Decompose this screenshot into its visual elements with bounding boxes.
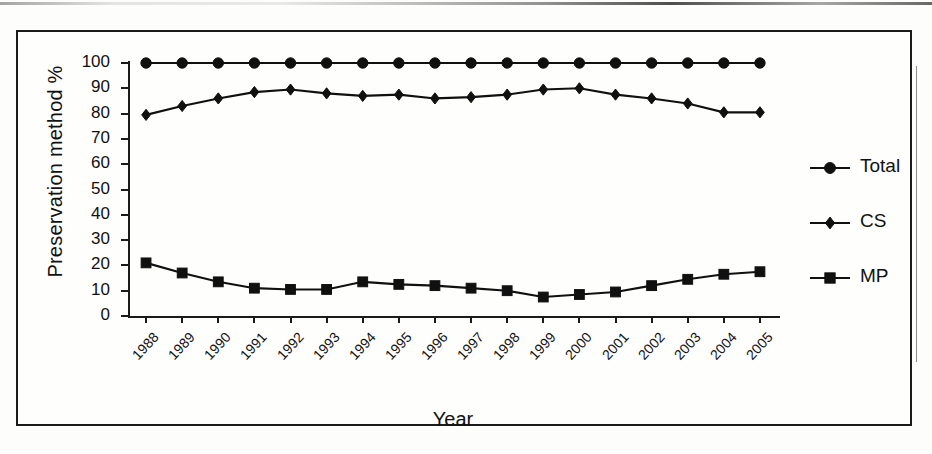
square-marker (502, 286, 512, 296)
y-tick: 100 (121, 62, 128, 64)
circle-marker (430, 58, 440, 68)
data-series-layer (128, 63, 780, 319)
y-tick-label: 20 (70, 254, 110, 274)
diamond-marker (178, 100, 187, 111)
diamond-marker (250, 86, 259, 97)
circle-marker (683, 58, 693, 68)
legend-label: Total (860, 155, 900, 177)
square-marker (286, 285, 296, 295)
y-tick-label: 60 (70, 153, 110, 173)
x-tick-label: 2003 (669, 329, 704, 365)
y-tick: 40 (121, 214, 128, 216)
diamond-marker (683, 98, 692, 109)
square-marker (683, 274, 693, 284)
x-tick-label: 1995 (380, 329, 415, 365)
series-line (146, 88, 760, 115)
y-tick-label: 30 (70, 229, 110, 249)
y-tick: 20 (121, 264, 128, 266)
square-marker (394, 279, 404, 289)
diamond-marker (575, 83, 584, 94)
y-tick-label: 10 (70, 280, 110, 300)
x-tick-label: 1992 (271, 329, 306, 365)
y-tick-label: 50 (70, 179, 110, 199)
circle-marker (213, 58, 223, 68)
diamond-marker (394, 89, 403, 100)
diamond-marker (322, 88, 331, 99)
y-tick-label: 70 (70, 128, 110, 148)
x-tick-label: 2000 (560, 329, 595, 365)
square-marker (213, 277, 223, 287)
x-tick-label: 2004 (705, 329, 740, 365)
circle-marker (285, 58, 295, 68)
y-tick: 0 (121, 315, 128, 317)
y-tick: 70 (121, 138, 128, 140)
y-tick-label: 0 (70, 305, 110, 325)
series-total (141, 58, 765, 68)
y-tick: 10 (121, 290, 128, 292)
x-axis-title: Year (128, 408, 778, 431)
y-axis-title: Preservation method % (44, 47, 67, 297)
circle-marker (719, 58, 729, 68)
y-tick-label: 90 (70, 77, 110, 97)
square-marker (141, 258, 151, 268)
diamond-marker (503, 89, 512, 100)
legend-marker-sample (808, 212, 852, 234)
legend-marker-sample (808, 157, 852, 179)
legend-item-mp[interactable]: MP (808, 267, 908, 289)
square-marker (358, 277, 368, 287)
circle-marker (502, 58, 512, 68)
square-marker (322, 285, 332, 295)
y-tick: 30 (121, 239, 128, 241)
circle-marker (610, 58, 620, 68)
y-tick: 90 (121, 87, 128, 89)
square-marker (430, 281, 440, 291)
diamond-marker (825, 217, 834, 229)
plot-area: 1009080706050403020100 19881989199019911… (128, 63, 778, 316)
square-marker (755, 267, 765, 277)
x-tick-label: 1997 (452, 329, 487, 365)
series-cs (142, 83, 765, 121)
circle-marker (825, 163, 836, 174)
circle-marker (177, 58, 187, 68)
chart-figure: Preservation method % 100908070605040302… (16, 30, 912, 426)
diamond-marker (431, 93, 440, 104)
square-marker (611, 287, 621, 297)
x-tick-label: 2001 (596, 329, 631, 365)
x-tick-label: 1998 (488, 329, 523, 365)
circle-marker (394, 58, 404, 68)
circle-marker (358, 58, 368, 68)
x-tick-label: 1993 (307, 329, 342, 365)
circle-marker (141, 58, 151, 68)
x-tick-label: 1989 (163, 329, 198, 365)
series-line (146, 263, 760, 297)
y-tick-label: 100 (70, 52, 110, 72)
circle-marker (249, 58, 259, 68)
y-tick: 60 (121, 163, 128, 165)
square-marker (538, 292, 548, 302)
y-tick-label: 40 (70, 204, 110, 224)
square-marker (647, 281, 657, 291)
diamond-marker (358, 90, 367, 101)
x-tick-label: 2005 (741, 329, 776, 365)
x-tick-label: 1990 (199, 329, 234, 365)
diamond-marker (756, 107, 765, 118)
y-tick-label: 80 (70, 103, 110, 123)
x-tick-label: 1988 (127, 329, 162, 365)
legend-item-total[interactable]: Total (808, 157, 908, 179)
y-tick: 80 (121, 113, 128, 115)
square-marker (825, 273, 835, 283)
legend-marker-sample (808, 267, 852, 289)
legend-label: MP (860, 265, 889, 287)
x-tick-label: 1994 (344, 329, 379, 365)
scan-artifact-line (0, 2, 932, 5)
legend-divider (916, 66, 917, 362)
circle-marker (321, 58, 331, 68)
diamond-marker (719, 107, 728, 118)
circle-marker (646, 58, 656, 68)
legend-item-cs[interactable]: CS (808, 212, 908, 234)
circle-marker (755, 58, 765, 68)
x-tick-label: 1999 (524, 329, 559, 365)
legend-label: CS (860, 210, 886, 232)
diamond-marker (214, 93, 223, 104)
series-mp (141, 258, 765, 302)
